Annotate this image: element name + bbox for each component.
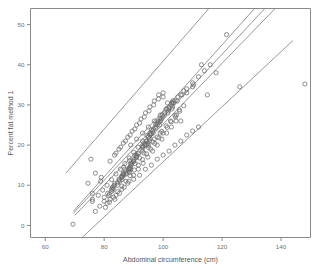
data-point bbox=[161, 95, 165, 99]
y-tick-label: 10 bbox=[18, 181, 25, 188]
data-point bbox=[185, 133, 189, 137]
y-axis-title: Percent fat method 1 bbox=[7, 90, 14, 155]
fit-line-lower-confidence-limit bbox=[75, 9, 275, 216]
x-tick-label: 100 bbox=[158, 243, 169, 250]
data-point bbox=[89, 157, 93, 161]
data-point bbox=[205, 93, 209, 97]
y-tick-label: 40 bbox=[18, 61, 25, 68]
data-point bbox=[202, 69, 206, 73]
data-point bbox=[152, 99, 156, 103]
y-tick-label: 0 bbox=[21, 222, 25, 229]
data-point bbox=[173, 143, 177, 147]
data-point bbox=[105, 183, 109, 187]
data-point bbox=[102, 199, 106, 203]
x-tick-label: 140 bbox=[276, 243, 287, 250]
data-point bbox=[238, 85, 242, 89]
data-point bbox=[143, 167, 147, 171]
data-point bbox=[149, 163, 153, 167]
data-point bbox=[102, 195, 106, 199]
data-point bbox=[86, 181, 90, 185]
y-tick-label: 50 bbox=[18, 21, 25, 28]
data-point bbox=[71, 222, 75, 226]
x-tick-label: 120 bbox=[217, 243, 228, 250]
data-point bbox=[199, 63, 203, 67]
y-tick-label: 20 bbox=[18, 141, 25, 148]
x-tick-label: 80 bbox=[101, 243, 108, 250]
data-point bbox=[148, 105, 152, 109]
x-tick-label: 60 bbox=[42, 243, 49, 250]
data-point bbox=[185, 87, 189, 91]
data-point bbox=[137, 121, 141, 125]
data-point bbox=[118, 167, 122, 171]
data-point bbox=[93, 171, 97, 175]
data-point bbox=[103, 205, 107, 209]
data-point bbox=[182, 89, 186, 93]
data-point bbox=[143, 111, 147, 115]
data-point bbox=[303, 82, 307, 86]
data-point bbox=[224, 33, 228, 37]
y-axis-tick-labels: 01020304050 bbox=[18, 21, 25, 229]
data-point bbox=[156, 97, 160, 101]
data-point bbox=[98, 204, 102, 208]
data-point bbox=[108, 159, 112, 163]
data-point bbox=[140, 131, 144, 135]
data-point bbox=[132, 177, 136, 181]
data-point bbox=[135, 123, 139, 127]
x-axis-tick-labels: 6080100120140 bbox=[42, 243, 287, 250]
data-point bbox=[157, 93, 161, 97]
scatter-plot-figure: 6080100120140 01020304050 Abdominal circ… bbox=[0, 0, 323, 270]
data-point bbox=[196, 75, 200, 79]
data-point bbox=[139, 117, 143, 121]
data-point bbox=[109, 178, 113, 182]
data-point bbox=[174, 119, 178, 123]
data-point bbox=[137, 173, 141, 177]
data-point bbox=[169, 125, 173, 129]
data-point bbox=[176, 95, 180, 99]
data-point bbox=[161, 91, 165, 95]
data-point bbox=[165, 101, 169, 105]
data-point bbox=[101, 188, 105, 192]
data-point bbox=[155, 157, 159, 161]
scatter-points bbox=[71, 33, 307, 227]
data-point bbox=[136, 145, 140, 149]
regression-lines bbox=[66, 9, 293, 238]
fit-line-lower-prediction-limit bbox=[82, 41, 293, 238]
data-point bbox=[93, 209, 97, 213]
y-tick-label: 30 bbox=[18, 101, 25, 108]
data-point bbox=[99, 179, 103, 183]
data-point bbox=[161, 153, 165, 157]
data-point bbox=[136, 167, 140, 171]
data-point bbox=[214, 71, 218, 75]
data-point bbox=[191, 129, 195, 133]
data-point bbox=[108, 197, 112, 201]
data-point bbox=[185, 91, 189, 95]
data-point bbox=[182, 104, 186, 108]
x-axis-title: Abdominal circumference (cm) bbox=[123, 256, 218, 264]
data-point bbox=[179, 119, 183, 123]
plot-canvas: 6080100120140 01020304050 Abdominal circ… bbox=[0, 0, 323, 270]
y-axis-ticks bbox=[27, 25, 31, 226]
data-point bbox=[167, 149, 171, 153]
data-point bbox=[179, 139, 183, 143]
data-point bbox=[99, 175, 103, 179]
x-axis-ticks bbox=[45, 238, 281, 242]
data-point bbox=[96, 193, 100, 197]
